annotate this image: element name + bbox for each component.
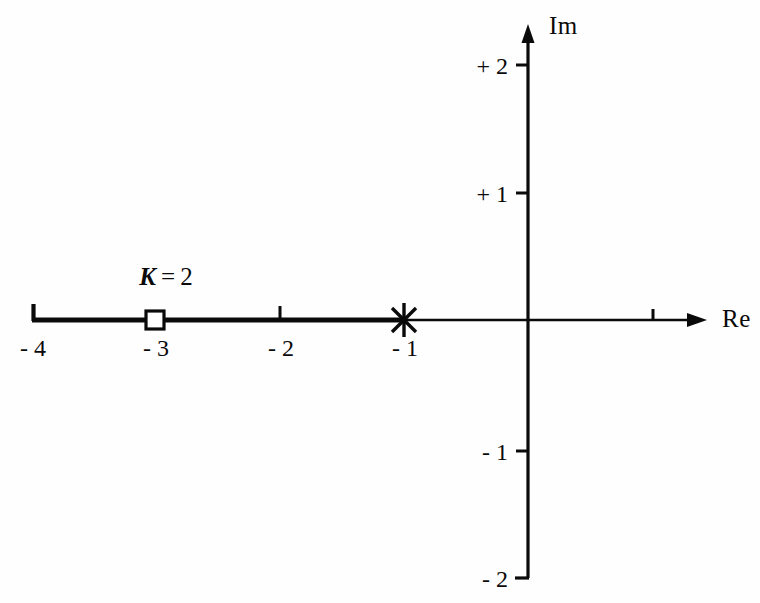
re-tick-label-minus-2: - 2: [268, 335, 294, 362]
im-tick-label-minus-2: - 2: [452, 566, 508, 593]
plot-canvas: [0, 0, 760, 603]
gain-value: 2: [180, 263, 193, 290]
real-axis-label: Re: [722, 305, 751, 333]
im-tick-label-minus-1: - 1: [452, 439, 508, 466]
square-marker: [146, 311, 164, 329]
up-arrow-icon: [522, 24, 535, 43]
gain-equals: =: [161, 263, 175, 290]
re-tick-label-minus-3: - 3: [143, 335, 169, 362]
gain-symbol: K: [139, 263, 156, 290]
re-tick-label-minus-1: - 1: [392, 335, 418, 362]
imaginary-axis-label: Im: [549, 12, 578, 40]
im-tick-label-plus-2: + 2: [452, 53, 508, 80]
im-tick-label-plus-1: + 1: [452, 181, 508, 208]
re-tick-label-minus-4: - 4: [20, 335, 46, 362]
gain-annotation: K=2: [139, 263, 192, 291]
root-locus-figure: Im Re - 4 - 3 - 2 - 1 + 2 + 1 - 1 - 2 K=…: [0, 0, 760, 603]
right-arrow-icon: [687, 313, 707, 327]
